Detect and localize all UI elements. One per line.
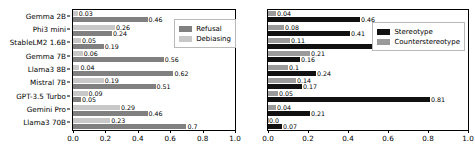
legend-right: StereotypeCounterstereotype [372,22,465,51]
chart-panel-left: Gemma 2BPhi3 miniStableLM2 1.6BGemma 7BL… [0,0,240,152]
bar-group: 0.040.21 [268,105,468,116]
bar-debiasing [73,118,110,123]
bar-group: 0.190.51 [73,78,235,89]
y-tick-label: Gemini Pro [27,105,66,114]
bar-group: 0.040.62 [73,65,235,76]
x-tick-mark [73,130,74,133]
y-tick-label: StableLM2 1.6B [10,38,66,47]
x-tick-label: 1.0 [462,134,473,143]
x-tick-label: 0.6 [164,134,175,143]
x-tick-mark [428,130,429,133]
bar-group: 0.050.81 [268,91,468,102]
x-tick-label: 0.0 [262,134,273,143]
legend-item: Counterstereotype [377,37,460,46]
y-tick-mark [67,109,70,110]
bar-value-label: 0.0 [269,118,279,123]
bar-value-label: 0.24 [113,31,127,36]
legend-item: Refusal [179,24,231,33]
legend-left: RefusalDebiasing [174,19,236,48]
legend-swatch [377,39,390,45]
bar-group: 0.00.07 [268,118,468,129]
x-tick-mark [308,130,309,133]
bar-value-label: 0.05 [82,38,96,43]
bar-refusal [73,84,156,89]
y-tick-mark [67,82,70,83]
bar-counterstereotype [268,38,290,43]
y-tick-label: Llama3 8B [28,65,66,74]
bar-group: 0.10.24 [268,65,468,76]
bar-group: 0.140.17 [268,78,468,89]
legend-label: Counterstereotype [394,38,460,46]
bar-stereotype [268,84,302,89]
bar-value-label: 0.07 [283,124,297,129]
bar-refusal [73,17,148,22]
bar-counterstereotype [268,25,284,30]
y-tick-mark [67,69,70,70]
bar-value-label: 0.24 [317,71,331,76]
bar-counterstereotype [268,91,278,96]
bar-value-label: 0.04 [80,65,94,70]
bar-debiasing [73,105,120,110]
bar-stereotype [268,124,282,129]
y-tick-label: Mistral 7B [30,78,66,87]
y-tick-mark [67,55,70,56]
chart-panel-right: 0.040.460.080.410.110.650.210.160.10.240… [240,0,475,152]
bar-group: 0.290.46 [73,105,235,116]
y-tick-mark [67,29,70,30]
y-tick-label: Phi3 mini [33,25,66,34]
bar-value-label: 0.11 [291,38,305,43]
x-tick-label: 0.2 [302,134,313,143]
y-tick-label: Gemma 2B [26,11,66,20]
bar-value-label: 0.29 [121,105,135,110]
bar-value-label: 0.16 [301,57,315,62]
bar-debiasing [73,51,83,56]
bar-group: 0.060.56 [73,51,235,62]
bar-refusal [73,71,173,76]
bar-value-label: 0.06 [84,51,98,56]
y-tick-label: Gemma 7B [26,51,66,60]
x-tick-mark [170,130,171,133]
x-tick-mark [348,130,349,133]
legend-swatch [179,26,192,32]
plot-area-left: 0.030.460.260.240.050.190.060.560.040.62… [72,9,236,131]
legend-label: Stereotype [394,28,432,36]
bar-refusal [73,111,148,116]
bar-stereotype [268,71,316,76]
bar-value-label: 0.81 [431,97,445,102]
bar-stereotype [268,97,430,102]
legend-item: Debiasing [179,34,231,43]
bar-value-label: 0.05 [82,97,96,102]
bar-value-label: 0.05 [279,91,293,96]
bar-counterstereotype [268,11,276,16]
bar-debiasing [73,11,78,16]
bar-counterstereotype [268,78,296,83]
bar-value-label: 0.17 [303,84,317,89]
y-tick-label: Llama3 70B [23,118,66,127]
bar-stereotype [268,57,300,62]
x-tick-mark [235,130,236,133]
bar-debiasing [73,78,104,83]
bar-value-label: 0.62 [174,71,188,76]
bar-refusal [73,44,104,49]
bar-debiasing [73,65,79,70]
y-tick-mark [67,42,70,43]
bar-value-label: 0.41 [351,31,365,36]
bar-value-label: 0.19 [105,78,119,83]
bar-refusal [73,57,164,62]
bar-group: 0.210.16 [268,51,468,62]
x-tick-label: 0.8 [197,134,208,143]
bar-debiasing [73,25,115,30]
y-tick-mark [67,95,70,96]
y-axis-labels-left: Gemma 2BPhi3 miniStableLM2 1.6BGemma 7BL… [0,9,70,131]
bar-value-label: 0.03 [79,11,93,16]
bar-value-label: 0.04 [277,11,291,16]
x-tick-label: 0.2 [100,134,111,143]
x-tick-mark [203,130,204,133]
x-tick-label: 0.4 [132,134,143,143]
bar-value-label: 0.08 [285,25,299,30]
bar-value-label: 0.19 [105,44,119,49]
legend-swatch [377,29,390,35]
bar-group: 0.040.46 [268,11,468,22]
bar-value-label: 0.46 [149,111,163,116]
bar-stereotype [268,17,360,22]
